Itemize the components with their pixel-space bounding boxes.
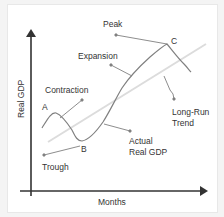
- x-axis-arrow-icon: [200, 186, 208, 196]
- label-actual-1: Actual: [129, 136, 153, 146]
- expansion-leader: [111, 65, 132, 76]
- y-axis-arrow-icon: [26, 29, 36, 37]
- label-trough: Trough: [42, 162, 69, 172]
- y-axis-label: Real GDP: [16, 79, 26, 118]
- label-long-run-2: Trend: [172, 118, 194, 128]
- label-expansion: Expansion: [78, 51, 118, 61]
- contraction-leader: [60, 100, 82, 118]
- label-long-run-1: Long-Run: [172, 107, 210, 117]
- label-peak: Peak: [103, 19, 123, 29]
- trough-leader: [44, 146, 80, 155]
- label-point-a: A: [42, 102, 48, 112]
- peak-leader: [116, 35, 167, 44]
- long-run-leader: [164, 76, 173, 94]
- x-axis-label: Months: [98, 197, 126, 207]
- label-point-b: B: [81, 144, 87, 154]
- label-point-c: C: [171, 36, 177, 46]
- label-actual-2: Real GDP: [129, 147, 168, 157]
- actual-gdp-leader: [104, 124, 130, 131]
- label-contraction: Contraction: [45, 85, 89, 95]
- business-cycle-diagram: Peak C Expansion Contraction A Long-Run …: [0, 0, 224, 217]
